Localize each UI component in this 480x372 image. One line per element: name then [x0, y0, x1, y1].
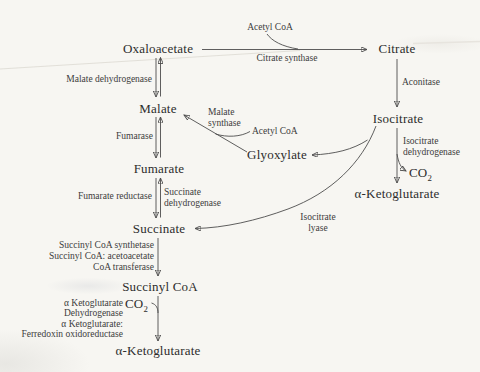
enzyme-isocitrate-lyase-line2: lyase [300, 223, 335, 234]
enzyme-succinate-dehydrogenase-line2: dehydrogenase [164, 198, 221, 209]
enzyme-isocitrate-dehydrogenase: Isocitrate dehydrogenase [403, 136, 460, 158]
curve-co2-bottom-release [152, 303, 159, 313]
scan-artifact-streak [413, 42, 480, 44]
enzyme-isocitrate-lyase-line1: Isocitrate [300, 212, 335, 223]
node-succinyl-coa: Succinyl CoA [122, 280, 198, 293]
cofactor-acetyl-coa-mid: Acetyl CoA [252, 127, 298, 137]
curve-acetyl-coa-mid [216, 132, 251, 137]
enzyme-akg-ferredoxin-line2: Ferredoxin oxidoreductase [21, 329, 123, 340]
co2-right-label: CO2 [409, 166, 432, 182]
enzyme-succinyl-coa-transfer-block: Succinyl CoA synthetase Succinyl CoA: ac… [49, 240, 154, 273]
node-succinate: Succinate [133, 222, 185, 235]
enzyme-akg-ferredoxin-line1: α Ketoglutarate: [21, 319, 123, 330]
cofactor-acetyl-coa-top: Acetyl CoA [247, 23, 293, 33]
enzyme-malate-synthase-line1: Malate [208, 107, 241, 118]
enzyme-malate-synthase-line2: synthase [208, 118, 241, 129]
enzyme-succinate-dehydrogenase: Succinate dehydrogenase [164, 187, 221, 208]
enzyme-succinyl-coa-synthetase: Succinyl CoA synthetase [49, 240, 154, 251]
enzyme-succinyl-coa-acetoacetate: Succinyl CoA: acetoacetate [49, 251, 154, 262]
co2-bottom-sub: 2 [143, 304, 148, 314]
enzyme-fumarate-reductase: Fumarate reductase [78, 192, 152, 202]
node-malate: Malate [139, 102, 176, 115]
node-alpha-ketoglutarate-bottom: α-Ketoglutarate [116, 344, 201, 357]
arrow-isocitrate-to-glyoxylate [312, 140, 368, 155]
curve-acetyl-coa-top [267, 34, 298, 49]
arrow-isocitrate-lyase-to-succinate [195, 126, 376, 229]
enzyme-fumarase: Fumarase [116, 132, 153, 142]
enzyme-akg-dehydrogenase-block: α Ketoglutarate Dehydrogenase α Ketoglut… [21, 298, 123, 340]
node-glyoxylate: Glyoxylate [247, 148, 307, 161]
co2-right-base: CO [409, 165, 427, 180]
enzyme-akg-dehydrogenase-line2: Dehydrogenase [21, 308, 123, 319]
enzyme-aconitase: Aconitase [402, 78, 440, 88]
node-oxaloacetate: Oxaloacetate [123, 42, 193, 55]
enzyme-isocitrate-lyase: Isocitrate lyase [300, 212, 335, 233]
node-alpha-ketoglutarate-right: α-Ketoglutarate [355, 187, 440, 200]
enzyme-malate-synthase: Malate synthase [208, 107, 241, 128]
enzyme-isocitrate-dehydrogenase-line1: Isocitrate [403, 136, 460, 147]
co2-right-sub: 2 [427, 173, 432, 183]
node-citrate: Citrate [379, 42, 416, 55]
enzyme-malate-dehydrogenase: Malate dehydrogenase [66, 75, 152, 85]
enzyme-coa-transferase: CoA transferase [49, 262, 154, 273]
enzyme-succinate-dehydrogenase-line1: Succinate [164, 187, 221, 198]
co2-bottom-base: CO [125, 296, 143, 311]
node-isocitrate: Isocitrate [373, 112, 423, 125]
co2-bottom-label: CO2 [125, 297, 148, 313]
node-fumarate: Fumarate [134, 162, 185, 175]
enzyme-citrate-synthase: Citrate synthase [257, 54, 318, 64]
enzyme-isocitrate-dehydrogenase-line2: dehydrogenase [403, 147, 460, 158]
enzyme-akg-dehydrogenase-line1: α Ketoglutarate [21, 298, 123, 309]
tca-glyoxylate-pathway-diagram: Oxaloacetate Citrate Malate Isocitrate F… [0, 0, 480, 372]
